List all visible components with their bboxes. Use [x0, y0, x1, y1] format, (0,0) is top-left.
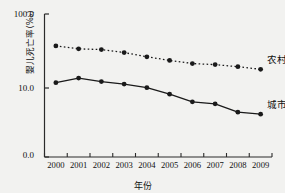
data-point [76, 46, 81, 51]
series-line [56, 46, 261, 69]
data-point [167, 58, 172, 63]
data-point [167, 92, 172, 97]
data-point [144, 54, 149, 59]
data-point [99, 79, 104, 84]
series-label-urban: 城市 [267, 97, 285, 111]
data-point [144, 85, 149, 90]
chart-container: 婴儿死亡率(‰) 100.0 10.0 0.0 2000200120022003… [0, 0, 285, 193]
x-tick-label: 2009 [247, 160, 275, 170]
data-point [76, 76, 81, 81]
series-label-rural: 农村 [267, 52, 285, 66]
data-point [122, 82, 127, 87]
data-point [258, 112, 263, 117]
data-point [235, 64, 240, 69]
series-rural [53, 44, 263, 72]
data-point [122, 50, 127, 55]
data-point [99, 47, 104, 52]
data-point [190, 61, 195, 66]
data-point [213, 62, 218, 67]
data-point [190, 99, 195, 104]
data-point [213, 101, 218, 106]
series-urban [53, 76, 263, 117]
data-point [53, 80, 58, 85]
series-line [56, 78, 261, 114]
x-axis-title: 年份 [0, 179, 285, 192]
data-point [258, 67, 263, 72]
data-point [53, 44, 58, 49]
data-point [235, 110, 240, 115]
